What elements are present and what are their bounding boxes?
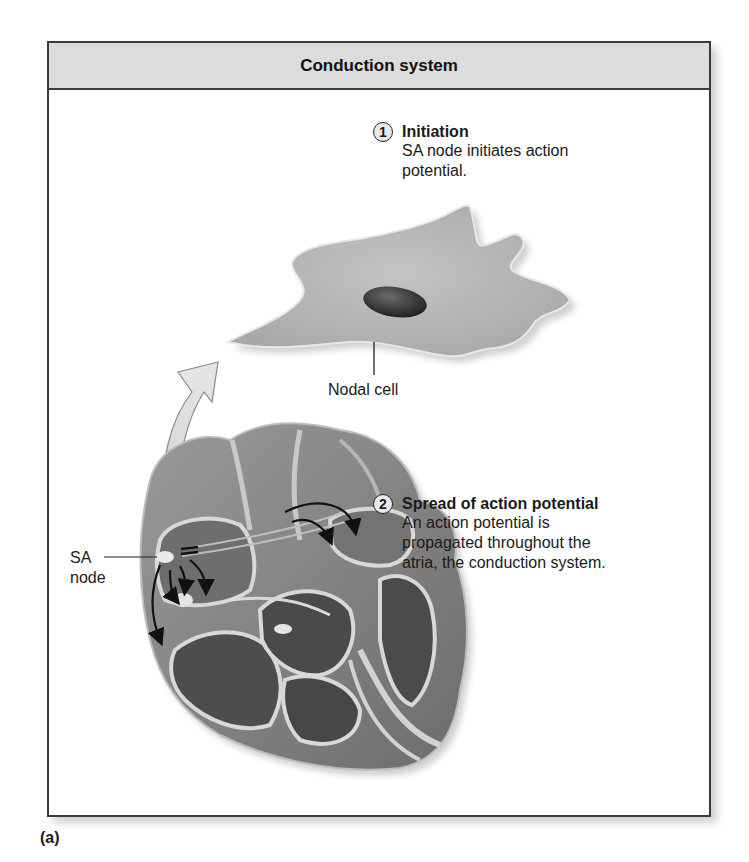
step-description-line: potential. (402, 161, 568, 181)
step-title: Spread of action potential (402, 494, 598, 514)
step-title: Initiation (402, 122, 469, 142)
step-description-line: SA node initiates action (402, 141, 568, 161)
heart-cross-section-illustration (104, 423, 472, 775)
sa-node-label-line1: SA (70, 548, 91, 568)
step-description-line: propagated throughout the (402, 533, 606, 553)
step-number-badge: 2 (373, 494, 393, 514)
panel-label: (a) (40, 829, 60, 847)
step-number-badge: 1 (373, 122, 393, 142)
step-description-line: atria, the conduction system. (402, 553, 606, 573)
step-description: SA node initiates action potential. (402, 141, 568, 181)
step-description-line: An action potential is (402, 513, 606, 533)
step-description: An action potential is propagated throug… (402, 513, 606, 573)
nodal-cell-label: Nodal cell (328, 380, 398, 400)
sa-node-label-line2: node (70, 568, 106, 588)
nodal-cell-illustration (228, 205, 576, 375)
